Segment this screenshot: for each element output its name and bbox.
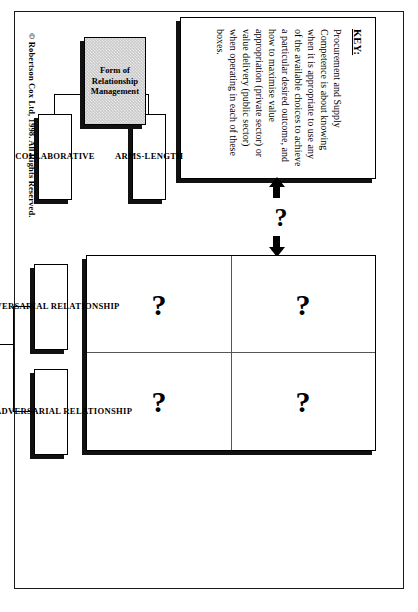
key-label: KEY:	[352, 29, 363, 167]
connector-collaborative-stem	[54, 94, 55, 114]
connector-goal-drop	[0, 344, 14, 345]
matrix-cell-value: ?	[152, 289, 167, 319]
form-of-relationship-management-text: Form of Relationship Management	[87, 65, 143, 97]
form-of-relationship-management-box: Form of Relationship Management	[84, 37, 146, 125]
copyright-notice: © Robertson Cox Ltd, 1998. All Rights Re…	[27, 33, 36, 218]
link-question-mark: ?	[268, 179, 294, 255]
matrix-cell-top-right: ?	[231, 353, 375, 450]
figure-page: KEY: Procurement and Supply Competence i…	[0, 0, 418, 612]
matrix-cell-value: ?	[296, 387, 311, 417]
two-by-two-matrix: ? ? ? ?	[86, 255, 376, 451]
matrix-cell-value: ?	[152, 387, 167, 417]
label-arms-length-text: ARMS-LENGTH	[115, 152, 183, 162]
key-box: KEY: Procurement and Supply Competence i…	[180, 17, 376, 179]
connector-adversarial-stem	[14, 306, 34, 307]
key-body-text: Procurement and Supply Competence is abo…	[214, 29, 344, 167]
label-adversarial-relationship: ADVERSARIAL RELATIONSHIP	[34, 264, 68, 350]
matrix-cell-bottom-right: ?	[87, 353, 231, 450]
connector-arms-length-stem	[148, 94, 149, 114]
key-link-connector: ?	[256, 179, 296, 255]
label-collaborative: COLLABORATIVE	[38, 114, 72, 200]
diagram-canvas: KEY: Procurement and Supply Competence i…	[14, 17, 404, 595]
matrix-cell-value: ?	[296, 289, 311, 319]
key-box-inner: KEY: Procurement and Supply Competence i…	[206, 18, 375, 178]
connector-goal-bus	[13, 306, 14, 412]
connector-non-adversarial-stem	[14, 411, 34, 412]
matrix-cell-top-left: ?	[231, 256, 375, 353]
label-arms-length: ARMS-LENGTH	[132, 114, 166, 200]
label-non-adversarial-relationship: NON- ADVERSARIAL RELATIONSHIP	[34, 369, 68, 455]
